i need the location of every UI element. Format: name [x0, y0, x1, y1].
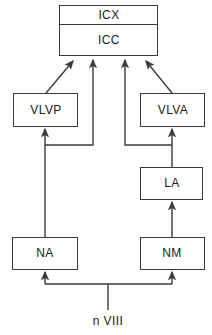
node-nm-label: NM	[162, 246, 181, 260]
edge-vlvp-to-icc	[46, 61, 73, 93]
block-flow-diagram: ICX ICC VLVP VLVA LA NA NM	[0, 0, 212, 335]
node-vlvp-label: VLVP	[30, 103, 61, 117]
node-na-label: NA	[36, 246, 53, 260]
node-icc-label: ICC	[98, 33, 120, 47]
node-la-group[interactable]: LA	[141, 168, 203, 200]
node-vlva-label: VLVA	[158, 103, 189, 117]
diagram-canvas: ICX ICC VLVP VLVA LA NA NM	[0, 0, 212, 335]
node-icx-icc-group[interactable]: ICX ICC	[60, 6, 158, 56]
input-nerve-label: n VIII	[93, 314, 123, 328]
edge-vlva-to-icc	[146, 61, 172, 93]
node-icx-label: ICX	[98, 8, 119, 22]
node-la-label: LA	[164, 176, 179, 190]
node-na-group[interactable]: NA	[13, 238, 78, 270]
node-nm-group[interactable]: NM	[141, 238, 205, 270]
node-vlva-group[interactable]: VLVA	[141, 94, 205, 127]
node-vlvp-group[interactable]: VLVP	[14, 94, 78, 127]
